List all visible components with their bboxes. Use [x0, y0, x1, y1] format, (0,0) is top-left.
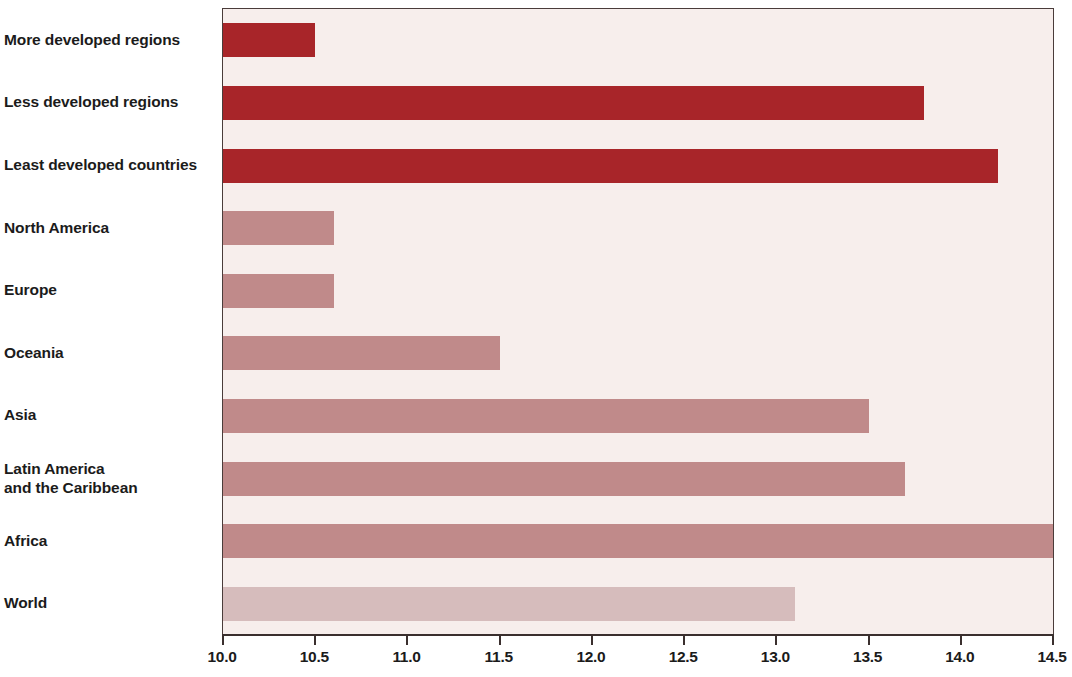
- bar: [223, 274, 334, 308]
- bar: [223, 211, 334, 245]
- category-label: Asia: [4, 405, 212, 424]
- x-axis-tick: [499, 634, 501, 645]
- category-label: Europe: [4, 280, 212, 299]
- x-axis-tick: [775, 634, 777, 645]
- bars-layer: [223, 9, 1053, 635]
- x-axis-tick-label: 10.5: [274, 648, 354, 666]
- x-axis-tick-label: 14.0: [920, 648, 1000, 666]
- category-axis: More developed regionsLess developed reg…: [0, 8, 214, 634]
- x-axis-tick: [1052, 634, 1054, 645]
- bar: [223, 23, 315, 57]
- bar: [223, 399, 869, 433]
- bar: [223, 524, 1053, 558]
- x-axis-tick-label: 14.5: [1012, 648, 1072, 666]
- x-axis: 10.010.511.011.512.012.513.013.514.014.5: [222, 634, 1054, 677]
- bar: [223, 86, 924, 120]
- category-label: More developed regions: [4, 30, 212, 49]
- x-axis-line: [222, 634, 1054, 636]
- category-label: World: [4, 593, 212, 612]
- bar: [223, 149, 998, 183]
- category-label: Oceania: [4, 343, 212, 362]
- x-axis-tick: [222, 634, 224, 645]
- x-axis-tick: [591, 634, 593, 645]
- x-axis-tick: [314, 634, 316, 645]
- x-axis-tick-label: 11.0: [366, 648, 446, 666]
- x-axis-tick-label: 10.0: [182, 648, 262, 666]
- x-axis-tick: [683, 634, 685, 645]
- plot-area: [222, 8, 1054, 636]
- category-label: North America: [4, 218, 212, 237]
- bar: [223, 462, 905, 496]
- x-axis-tick-label: 11.5: [459, 648, 539, 666]
- x-axis-tick: [960, 634, 962, 645]
- x-axis-tick: [868, 634, 870, 645]
- x-axis-tick: [406, 634, 408, 645]
- bar: [223, 336, 500, 370]
- x-axis-tick-label: 13.5: [828, 648, 908, 666]
- x-axis-tick-label: 12.5: [643, 648, 723, 666]
- x-axis-tick-label: 13.0: [735, 648, 815, 666]
- x-axis-tick-label: 12.0: [551, 648, 631, 666]
- category-label: Least developed countries: [4, 155, 212, 174]
- bar: [223, 587, 795, 621]
- category-label: Latin America and the Caribbean: [4, 459, 212, 497]
- category-label: Less developed regions: [4, 92, 212, 111]
- category-label: Africa: [4, 531, 212, 550]
